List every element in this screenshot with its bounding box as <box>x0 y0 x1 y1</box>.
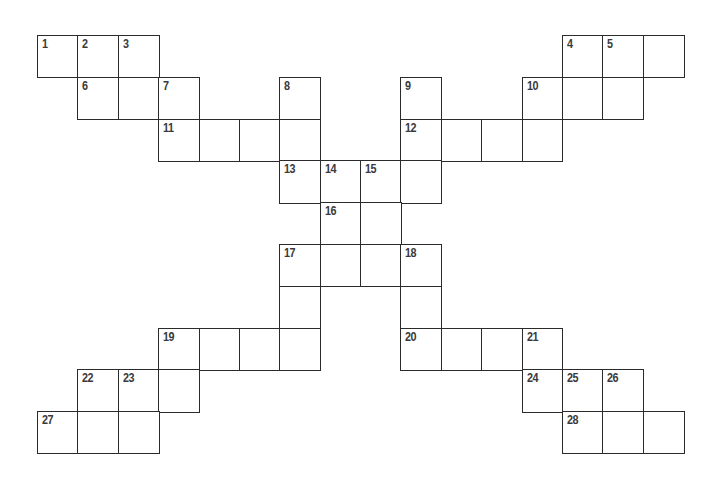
crossword-cell[interactable]: 22 <box>77 369 119 412</box>
clue-number: 3 <box>123 38 129 50</box>
crossword-cell[interactable]: 20 <box>400 328 442 371</box>
clue-number: 20 <box>405 331 416 343</box>
crossword-cell[interactable]: 5 <box>602 35 644 78</box>
crossword-grid: 1234567891011121314151617181920212223242… <box>0 0 716 487</box>
clue-number: 27 <box>42 414 53 426</box>
crossword-cell[interactable]: 23 <box>118 369 160 412</box>
crossword-cell[interactable] <box>400 286 442 329</box>
clue-number: 1 <box>42 38 48 50</box>
clue-number: 19 <box>163 331 174 343</box>
clue-number: 15 <box>365 163 376 175</box>
crossword-cell[interactable] <box>279 328 321 371</box>
crossword-cell[interactable]: 15 <box>360 160 402 203</box>
crossword-cell[interactable]: 21 <box>522 328 564 371</box>
crossword-cell[interactable] <box>118 77 160 120</box>
clue-number: 6 <box>82 80 88 92</box>
crossword-cell[interactable]: 28 <box>562 411 604 454</box>
clue-number: 5 <box>607 38 613 50</box>
crossword-cell[interactable] <box>643 411 685 454</box>
crossword-cell[interactable]: 11 <box>158 119 200 162</box>
crossword-cell[interactable]: 18 <box>400 244 442 287</box>
crossword-cell[interactable] <box>602 77 644 120</box>
crossword-cell[interactable]: 8 <box>279 77 321 120</box>
clue-number: 26 <box>607 372 618 384</box>
crossword-cell[interactable]: 1 <box>37 35 79 78</box>
crossword-cell[interactable]: 4 <box>562 35 604 78</box>
crossword-cell[interactable]: 24 <box>522 369 564 412</box>
crossword-cell[interactable] <box>199 328 241 371</box>
clue-number: 7 <box>163 80 169 92</box>
clue-number: 12 <box>405 122 416 134</box>
crossword-cell[interactable] <box>77 411 119 454</box>
crossword-cell[interactable]: 10 <box>522 77 564 120</box>
crossword-cell[interactable]: 7 <box>158 77 200 120</box>
crossword-cell[interactable]: 12 <box>400 119 442 162</box>
clue-number: 23 <box>123 372 134 384</box>
clue-number: 8 <box>284 80 290 92</box>
crossword-cell[interactable] <box>158 369 200 412</box>
crossword-cell[interactable] <box>643 35 685 78</box>
crossword-cell[interactable] <box>441 328 483 371</box>
clue-number: 14 <box>325 163 336 175</box>
crossword-cell[interactable] <box>239 328 281 371</box>
clue-number: 22 <box>82 372 93 384</box>
clue-number: 13 <box>284 163 295 175</box>
crossword-cell[interactable] <box>522 119 564 162</box>
clue-number: 17 <box>284 247 295 259</box>
crossword-cell[interactable] <box>481 328 523 371</box>
crossword-cell[interactable]: 6 <box>77 77 119 120</box>
crossword-cell[interactable] <box>279 286 321 329</box>
crossword-cell[interactable]: 17 <box>279 244 321 287</box>
crossword-cell[interactable] <box>360 202 402 245</box>
crossword-cell[interactable]: 16 <box>320 202 362 245</box>
clue-number: 9 <box>405 80 411 92</box>
clue-number: 24 <box>527 372 538 384</box>
crossword-cell[interactable] <box>562 77 604 120</box>
crossword-cell[interactable] <box>199 119 241 162</box>
clue-number: 25 <box>567 372 578 384</box>
crossword-cell[interactable]: 14 <box>320 160 362 203</box>
clue-number: 16 <box>325 205 336 217</box>
crossword-cell[interactable] <box>360 244 402 287</box>
crossword-cell[interactable] <box>441 119 483 162</box>
clue-number: 2 <box>82 38 88 50</box>
crossword-cell[interactable] <box>118 411 160 454</box>
clue-number: 11 <box>163 122 174 134</box>
clue-number: 4 <box>567 38 573 50</box>
crossword-cell[interactable] <box>320 244 362 287</box>
crossword-cell[interactable] <box>279 119 321 162</box>
crossword-cell[interactable] <box>400 160 442 203</box>
crossword-cell[interactable]: 3 <box>118 35 160 78</box>
crossword-cell[interactable]: 27 <box>37 411 79 454</box>
clue-number: 21 <box>527 331 538 343</box>
clue-number: 28 <box>567 414 578 426</box>
crossword-cell[interactable]: 13 <box>279 160 321 203</box>
clue-number: 10 <box>527 80 538 92</box>
crossword-cell[interactable]: 2 <box>77 35 119 78</box>
crossword-cell[interactable]: 26 <box>602 369 644 412</box>
clue-number: 18 <box>405 247 416 259</box>
crossword-cell[interactable] <box>481 119 523 162</box>
crossword-cell[interactable] <box>239 119 281 162</box>
crossword-cell[interactable] <box>602 411 644 454</box>
crossword-cell[interactable]: 9 <box>400 77 442 120</box>
crossword-cell[interactable]: 25 <box>562 369 604 412</box>
crossword-cell[interactable]: 19 <box>158 328 200 371</box>
